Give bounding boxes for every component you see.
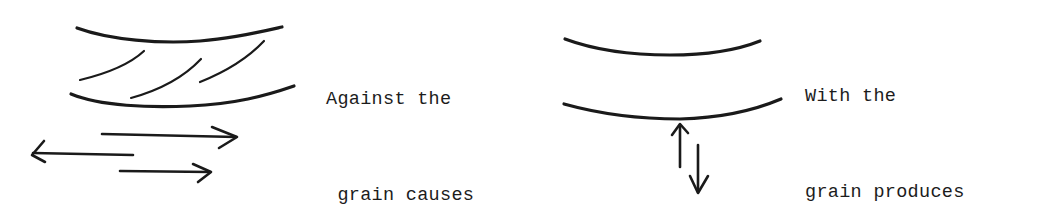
against-grain-arrows <box>32 127 237 182</box>
caption-line: grain causes <box>326 180 474 205</box>
arrow-right-icon <box>120 164 211 182</box>
against-grain-caption: Against the grain causes pull lines in a… <box>326 20 474 205</box>
arrow-right-icon <box>102 127 237 148</box>
with-grain-caption: With the grain produces a smooth hem <box>805 17 965 205</box>
caption-line: With the <box>805 81 965 113</box>
caption-line: grain produces <box>805 177 965 205</box>
hem-top-edge <box>77 27 282 42</box>
with-grain-arrows <box>672 124 708 193</box>
pull-line-1 <box>80 51 144 80</box>
pull-line-3 <box>200 41 264 82</box>
hem-bottom-edge <box>564 99 781 119</box>
arrow-left-icon <box>32 141 133 162</box>
caption-line: Against the <box>326 84 474 116</box>
hem-top-edge <box>565 39 760 55</box>
with-grain-hem-sketch <box>564 39 781 119</box>
hem-bottom-edge <box>71 86 294 107</box>
arrow-down-icon <box>690 145 708 193</box>
against-grain-hem-sketch <box>71 27 294 107</box>
arrow-up-icon <box>672 124 688 167</box>
pull-line-2 <box>131 59 201 98</box>
